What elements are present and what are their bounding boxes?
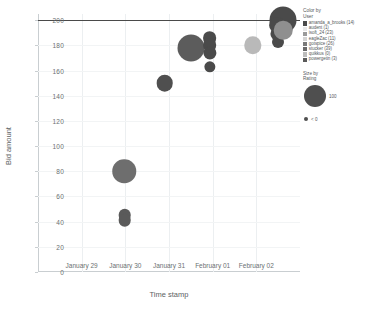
- gridline-horizontal: [38, 222, 300, 223]
- size-legend-title: Size by Rating: [303, 71, 368, 82]
- legend-swatch: [303, 27, 307, 31]
- y-tick-label: 60: [24, 196, 64, 203]
- size-legend-title-line2: Rating: [303, 76, 368, 81]
- y-tick-label: 200: [24, 20, 64, 27]
- legend-swatch: [303, 32, 307, 36]
- gridline-horizontal: [38, 247, 300, 248]
- y-tick-mark: [35, 20, 38, 21]
- size-legend-label: 100: [329, 93, 337, 98]
- y-tick-label: 40: [24, 222, 64, 229]
- y-tick-mark: [35, 96, 38, 97]
- bubble-chart: Bid amount 020406080100120140160180200 J…: [0, 0, 368, 311]
- x-tick-label: February 02: [239, 262, 274, 269]
- y-tick-mark: [35, 222, 38, 223]
- data-point[interactable]: [203, 46, 216, 59]
- size-legend-circle: [304, 117, 308, 121]
- y-tick-label: 20: [24, 247, 64, 254]
- gridline-horizontal: [38, 121, 300, 122]
- y-tick-mark: [35, 45, 38, 46]
- legend-swatch: [303, 21, 307, 25]
- gridline-horizontal: [38, 196, 300, 197]
- legend-swatch: [303, 37, 307, 41]
- reference-line: [38, 20, 300, 21]
- y-tick-label: 100: [24, 146, 64, 153]
- y-tick-mark: [35, 247, 38, 248]
- y-tick-mark: [35, 171, 38, 172]
- y-tick-mark: [35, 272, 38, 273]
- legend-swatch: [303, 58, 307, 62]
- plot-area: [38, 14, 300, 272]
- size-legend-label: < 0: [311, 116, 317, 121]
- y-tick-label: 140: [24, 96, 64, 103]
- size-legend: Size by Rating 100< 0: [303, 71, 368, 118]
- data-point[interactable]: [244, 37, 261, 54]
- color-legend-title-line2: User: [303, 14, 368, 20]
- x-tick-label: January 31: [153, 262, 185, 269]
- color-legend: Color by User amanda_a_brooks (14)audent…: [303, 8, 368, 62]
- y-tick-mark: [35, 71, 38, 72]
- y-tick-mark: [35, 196, 38, 197]
- legend-swatch: [303, 42, 307, 46]
- size-legend-circle: [304, 85, 326, 107]
- y-tick-label: 0: [24, 272, 64, 279]
- gridline-horizontal: [38, 96, 300, 97]
- y-axis-title: Bid amount: [4, 127, 13, 165]
- y-tick-mark: [35, 146, 38, 147]
- x-tick-label: January 30: [109, 262, 141, 269]
- legend-swatch: [303, 52, 307, 56]
- color-legend-title: Color by User: [303, 8, 368, 19]
- data-point[interactable]: [119, 214, 132, 227]
- gridline-vertical: [169, 14, 170, 272]
- gridline-horizontal: [38, 71, 300, 72]
- x-tick-label: February 01: [195, 262, 230, 269]
- y-tick-label: 120: [24, 121, 64, 128]
- data-point[interactable]: [274, 21, 293, 40]
- x-axis-title: Time stamp: [38, 290, 300, 299]
- gridline-vertical: [125, 14, 126, 272]
- y-tick-label: 180: [24, 45, 64, 52]
- gridline-vertical: [82, 14, 83, 272]
- x-tick-label: January 29: [66, 262, 98, 269]
- data-point[interactable]: [156, 75, 173, 92]
- gridline-horizontal: [38, 171, 300, 172]
- legend-swatch: [303, 47, 307, 51]
- y-tick-label: 80: [24, 171, 64, 178]
- data-point[interactable]: [113, 160, 137, 184]
- gridline-horizontal: [38, 146, 300, 147]
- y-tick-label: 160: [24, 71, 64, 78]
- size-legend-body: 100< 0: [303, 84, 368, 118]
- y-tick-mark: [35, 121, 38, 122]
- legend-item-label: powergetin (3): [309, 57, 337, 62]
- legend-item[interactable]: powergetin (3): [303, 57, 368, 62]
- data-point[interactable]: [177, 34, 204, 61]
